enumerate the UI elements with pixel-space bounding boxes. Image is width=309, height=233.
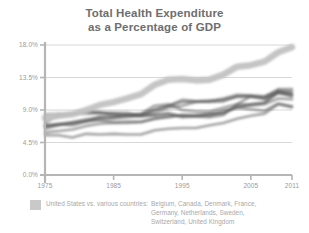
legend-countries: Belgium, Canada, Denmark, France, German…	[151, 199, 277, 227]
x-axis-tick-label: 2005	[234, 182, 268, 189]
y-axis-tick-label: 0.0%	[0, 171, 38, 178]
legend-swatch-icon	[30, 200, 41, 210]
legend-text: United States vs. various countries:Belg…	[46, 199, 277, 227]
chart-figure: Total Health Expenditure as a Percentage…	[0, 0, 309, 233]
x-axis-tick-label: 1985	[97, 182, 131, 189]
y-axis-tick-label: 9.0%	[0, 106, 38, 113]
y-axis-tick-label: 18.0%	[0, 41, 38, 48]
y-axis-tick-label: 13.5%	[0, 74, 38, 81]
x-axis-tick-label: 2011	[275, 182, 309, 189]
chart-legend: United States vs. various countries:Belg…	[30, 199, 305, 227]
x-axis-tick-label: 1975	[28, 182, 62, 189]
y-axis-tick-label: 4.5%	[0, 139, 38, 146]
legend-label: United States vs. various countries:	[46, 200, 148, 207]
x-axis-tick-label: 1995	[165, 182, 199, 189]
series-group	[45, 47, 292, 137]
